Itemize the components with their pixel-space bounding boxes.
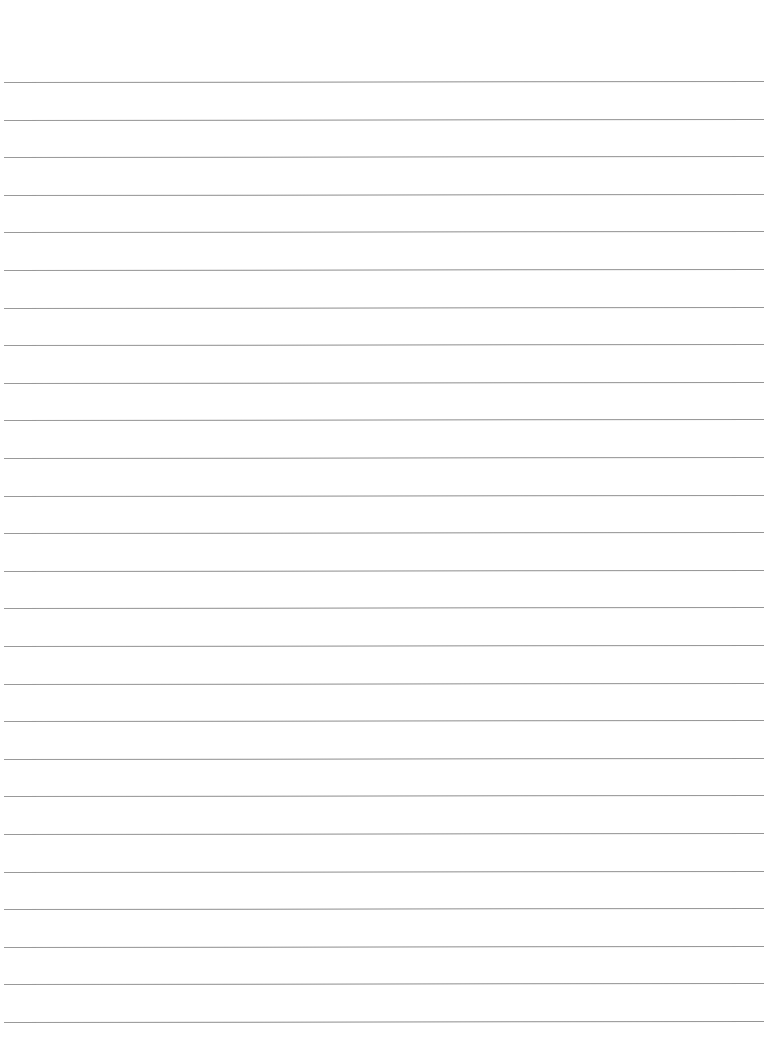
ruled-line xyxy=(4,683,764,685)
ruled-line xyxy=(4,269,764,271)
ruled-line xyxy=(4,1021,764,1023)
ruled-line xyxy=(4,908,764,910)
ruled-line xyxy=(4,231,764,233)
ruled-line xyxy=(4,81,764,83)
ruled-line xyxy=(4,570,764,572)
ruled-line xyxy=(4,720,764,722)
ruled-line xyxy=(4,871,764,873)
ruled-line xyxy=(4,532,764,534)
ruled-line xyxy=(4,795,764,797)
ruled-line xyxy=(4,758,764,760)
ruled-line xyxy=(4,344,764,346)
ruled-line xyxy=(4,645,764,647)
ruled-line xyxy=(4,607,764,609)
ruled-line xyxy=(4,194,764,196)
ruled-line xyxy=(4,833,764,835)
ruled-line xyxy=(4,156,764,158)
ruled-line xyxy=(4,946,764,948)
ruled-line xyxy=(4,119,764,121)
ruled-line xyxy=(4,307,764,309)
ruled-line xyxy=(4,382,764,384)
ruled-line xyxy=(4,495,764,497)
ruled-line xyxy=(4,983,764,985)
ruled-line xyxy=(4,457,764,459)
ruled-line xyxy=(4,419,764,421)
lined-paper-sheet xyxy=(0,0,766,1054)
